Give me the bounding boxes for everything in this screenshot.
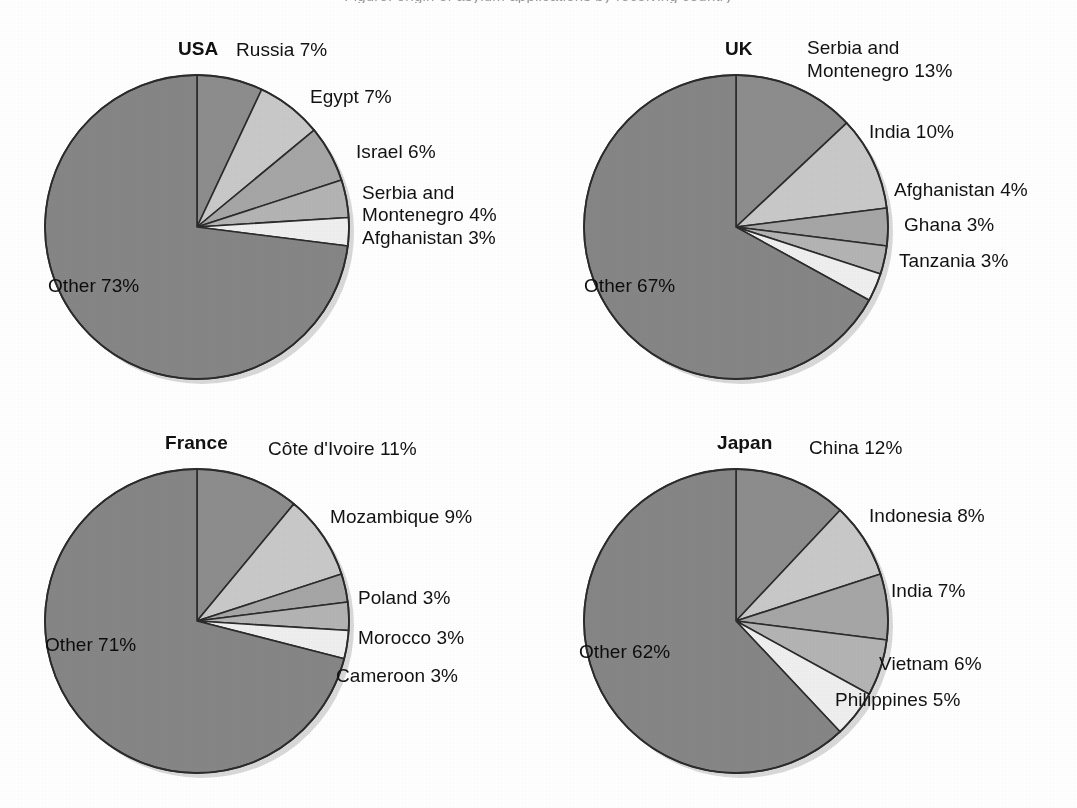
slice-label-usa-egypt: Egypt 7% [310, 85, 392, 108]
slice-label-usa-israel: Israel 6% [356, 140, 436, 163]
slice-label-uk-ghana: Ghana 3% [904, 213, 994, 236]
slice-label-france-cote-divoire: Côte d'Ivoire 11% [268, 437, 417, 460]
slice-label-france-morocco: Morocco 3% [358, 626, 464, 649]
panel-title-usa: USA [178, 38, 218, 60]
pie-chart-figure: USA Russia 7%Egypt 7%Israel 6%Serbia and… [0, 0, 1077, 808]
slice-label-uk-india: India 10% [869, 120, 954, 143]
slice-label-france-mozambique: Mozambique 9% [330, 505, 472, 528]
pie-svg-usa: Russia 7%Egypt 7%Israel 6%Serbia and Mon… [37, 67, 357, 387]
panel-title-japan: Japan [717, 432, 772, 454]
pie-uk: Serbia and Montenegro 13%India 10%Afghan… [576, 67, 896, 387]
slice-label-uk-serbia-line2: Montenegro 13% [807, 59, 952, 82]
pie-usa: Russia 7%Egypt 7%Israel 6%Serbia and Mon… [37, 67, 357, 387]
pie-inner-label-japan: Other 62% [579, 641, 670, 663]
slice-label-japan-philippines: Philippines 5% [835, 688, 960, 711]
slice-label-france-cameroon: Cameroon 3% [336, 664, 458, 687]
pie-svg-japan: China 12%Indonesia 8%India 7%Vietnam 6%P… [576, 461, 896, 781]
slice-label-usa-serbia-line2: Montenegro 4% [362, 203, 497, 226]
chart-panel-japan: Japan China 12%Indonesia 8%India 7%Vietn… [539, 394, 1077, 798]
slice-label-japan-indonesia: Indonesia 8% [869, 504, 985, 527]
panel-title-uk: UK [725, 38, 753, 60]
pie-svg-france: Côte d'Ivoire 11%Mozambique 9%Poland 3%M… [37, 461, 357, 781]
slice-label-uk-tanzania: Tanzania 3% [899, 249, 1008, 272]
chart-panel-france: France Côte d'Ivoire 11%Mozambique 9%Pol… [0, 394, 538, 798]
pie-inner-label-france: Other 71% [45, 634, 136, 656]
slice-label-japan-vietnam: Vietnam 6% [879, 652, 982, 675]
pie-japan: China 12%Indonesia 8%India 7%Vietnam 6%P… [576, 461, 896, 781]
pie-inner-label-uk: Other 67% [584, 275, 675, 297]
slice-label-japan-india: India 7% [891, 579, 965, 602]
chart-panel-usa: USA Russia 7%Egypt 7%Israel 6%Serbia and… [0, 0, 538, 404]
slice-label-france-poland: Poland 3% [358, 586, 450, 609]
slice-label-uk-afghanistan: Afghanistan 4% [894, 178, 1028, 201]
slice-label-usa-serbia-line1: Serbia and [362, 181, 454, 204]
pie-svg-uk: Serbia and Montenegro 13%India 10%Afghan… [576, 67, 896, 387]
slice-label-usa-afghanistan: Afghanistan 3% [362, 226, 496, 249]
pie-inner-label-usa: Other 73% [48, 275, 139, 297]
panel-title-france: France [165, 432, 228, 454]
slice-label-japan-china: China 12% [809, 436, 902, 459]
slice-label-uk-serbia-line1: Serbia and [807, 36, 899, 59]
chart-panel-uk: UK Serbia and Montenegro 13%India 10%Afg… [539, 0, 1077, 404]
slice-label-usa-russia: Russia 7% [236, 38, 327, 61]
pie-france: Côte d'Ivoire 11%Mozambique 9%Poland 3%M… [37, 461, 357, 781]
